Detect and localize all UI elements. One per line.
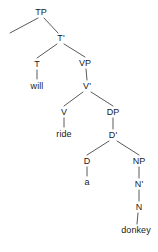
tree-node-N: N [136, 202, 143, 212]
tree-node-donkey: donkey [121, 225, 151, 235]
tree-branch-Dbar-to-NP [117, 141, 139, 155]
tree-branch-VP-to-Vbar [86, 69, 87, 80]
tree-branch-lines [0, 0, 158, 252]
syntax-tree-diagram: TPT'TwillVPV'VrideDPD'DaNPN'Ndonkey [0, 0, 158, 252]
tree-branch-N-to-donkey [137, 213, 138, 224]
tree-branch-Vbar-to-V [64, 92, 83, 106]
tree-node-Tbar: T' [57, 33, 64, 43]
tree-node-Vbar: V' [83, 81, 91, 91]
tree-node-D: D [84, 156, 91, 166]
tree-node-V: V [61, 107, 67, 117]
tree-node-T: T [34, 59, 40, 69]
tree-branch-TP-to-specifier-empty [10, 18, 38, 33]
tree-node-Nbar: N' [135, 179, 143, 189]
tree-node-Dbar: D' [109, 130, 117, 140]
tree-branch-Tbar-to-T [37, 44, 57, 58]
tree-node-NP: NP [133, 156, 146, 166]
tree-branch-TP-to-Tbar [44, 18, 58, 33]
tree-branch-Tbar-to-VP [64, 44, 85, 57]
tree-node-will: will [31, 81, 44, 91]
tree-node-ride: ride [56, 129, 71, 139]
tree-node-TP: TP [35, 7, 47, 17]
tree-node-VP: VP [79, 58, 91, 68]
tree-node-a: a [84, 177, 89, 187]
tree-node-DP: DP [107, 107, 120, 117]
tree-branch-Dbar-to-D [87, 141, 109, 155]
tree-branch-Vbar-to-DP [91, 92, 113, 106]
